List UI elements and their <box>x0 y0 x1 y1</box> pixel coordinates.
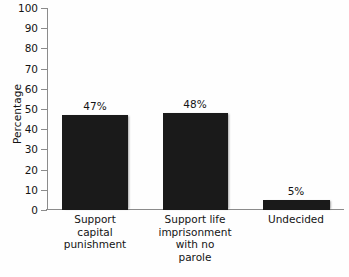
bar-value-label: 47% <box>83 100 106 112</box>
y-tick-label: 70 <box>25 63 38 75</box>
bar-value-label: 48% <box>183 98 206 110</box>
y-tick-mark <box>41 69 47 70</box>
y-tick-mark <box>41 170 47 171</box>
y-tick-label: 50 <box>25 103 38 115</box>
x-axis-category-label: Undecided <box>236 213 349 226</box>
y-tick-mark <box>41 8 47 9</box>
y-tick-mark <box>41 190 47 191</box>
plot-area: 1009080706050403020100 47%48%5% <box>47 8 344 210</box>
bar: 47% <box>62 115 128 210</box>
y-tick-mark <box>41 48 47 49</box>
y-tick-label: 60 <box>25 83 38 95</box>
y-axis-title: Percentage <box>11 69 23 159</box>
category-label-line: imprisonment <box>135 226 255 239</box>
bar-value-label: 5% <box>288 185 305 197</box>
y-tick-mark <box>41 89 47 90</box>
y-tick-label: 20 <box>25 164 38 176</box>
y-tick-label: 10 <box>25 184 38 196</box>
category-label-line: Undecided <box>236 213 349 226</box>
y-tick-label: 100 <box>18 2 38 14</box>
category-label-line: with no <box>135 238 255 251</box>
category-label-line: parole <box>135 251 255 264</box>
y-tick-label: 40 <box>25 123 38 135</box>
y-tick-mark <box>41 149 47 150</box>
y-tick-mark <box>41 28 47 29</box>
y-tick-mark <box>41 210 47 211</box>
y-tick-mark <box>41 109 47 110</box>
y-tick-label: 90 <box>25 22 38 34</box>
bar-chart: Percentage 1009080706050403020100 47%48%… <box>0 0 349 277</box>
bar: 48% <box>163 113 228 210</box>
y-tick-mark <box>41 129 47 130</box>
y-tick-label: 30 <box>25 143 38 155</box>
bar: 5% <box>263 200 330 210</box>
y-axis-line <box>47 8 48 210</box>
y-tick-label: 80 <box>25 42 38 54</box>
